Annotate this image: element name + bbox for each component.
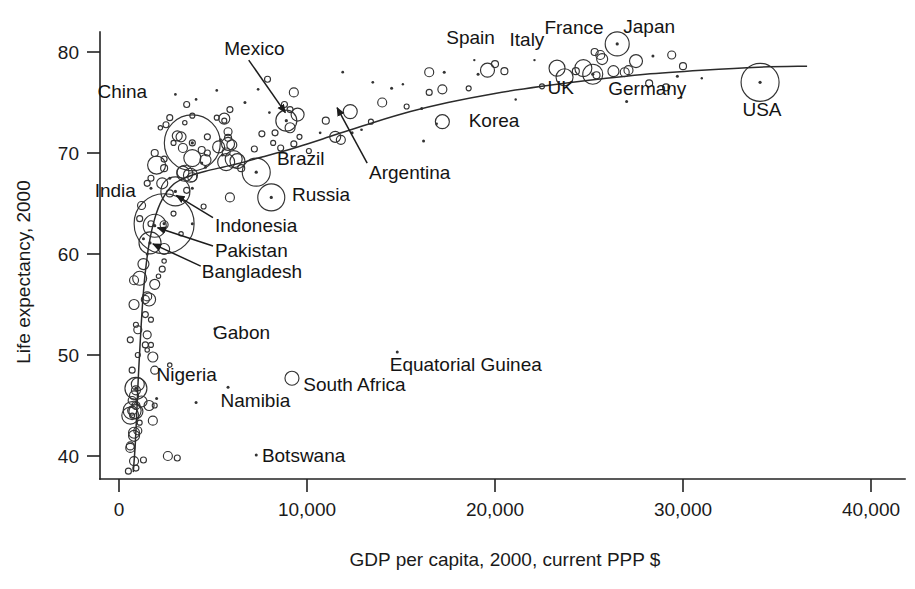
country-label: South Africa <box>303 374 406 395</box>
country-label: Japan <box>623 16 675 37</box>
data-point-dot <box>191 187 194 190</box>
data-point-bubble <box>287 107 293 113</box>
data-point-bubble <box>156 274 160 278</box>
data-point-dot <box>371 81 374 84</box>
data-point-bubble <box>167 115 173 121</box>
data-point-dot <box>402 83 404 85</box>
x-tick-label: 20,000 <box>466 499 524 520</box>
data-point-bubble <box>630 55 643 68</box>
data-point-bubble <box>171 140 176 145</box>
data-point-dot <box>200 162 203 165</box>
data-point-center-dot <box>191 141 194 144</box>
data-point-bubble <box>163 122 169 128</box>
annotation-leader-arrow <box>153 244 201 266</box>
data-point-dot <box>319 131 322 134</box>
data-point-bubble <box>668 51 676 59</box>
data-point-center-dot <box>174 190 177 193</box>
data-point-bubble <box>289 88 298 97</box>
data-point-bubble <box>426 89 432 95</box>
data-point-bubble <box>157 178 168 189</box>
data-point-dot <box>651 55 654 58</box>
data-point-bubble <box>143 331 151 339</box>
data-point-bubble <box>140 457 146 463</box>
y-tick-label: 60 <box>58 244 79 265</box>
data-point-bubble <box>152 403 157 408</box>
data-point-bubble <box>204 134 210 140</box>
country-label: China <box>98 81 148 102</box>
data-point-bubble <box>404 104 409 109</box>
data-point-bubble <box>129 367 135 373</box>
data-point-bubble <box>129 300 139 310</box>
data-point-bubble <box>142 312 148 318</box>
y-tick-label: 40 <box>58 446 79 467</box>
country-label: India <box>95 180 137 201</box>
data-point-dot <box>473 59 475 61</box>
data-point-dot <box>268 111 271 114</box>
preston-curve-figure: 010,00020,00030,00040,0004050607080 Chin… <box>0 0 915 589</box>
data-point-bubble <box>501 68 508 75</box>
data-point-bubble <box>227 107 233 113</box>
data-point-dot <box>174 93 177 96</box>
country-label: Pakistan <box>215 240 288 261</box>
x-tick-label: 0 <box>114 499 125 520</box>
x-tick-label: 10,000 <box>278 499 336 520</box>
data-point-dot <box>390 87 393 90</box>
country-label: Russia <box>292 184 351 205</box>
data-point-dot <box>514 98 516 100</box>
data-point-bubble <box>259 131 265 137</box>
data-point-dot <box>221 154 224 157</box>
data-point-bubble <box>163 452 172 461</box>
country-label: Indonesia <box>215 215 298 236</box>
data-point-bubble <box>190 113 195 118</box>
data-point-bubble <box>130 276 139 285</box>
data-point-dot <box>204 166 207 169</box>
data-point-bubble <box>593 72 600 79</box>
country-label: UK <box>548 77 575 98</box>
country-label: Argentina <box>369 162 451 183</box>
country-label: Equatorial Guinea <box>390 354 543 375</box>
data-point-dot <box>243 101 246 104</box>
data-point-dot <box>191 222 194 225</box>
data-point-center-dot <box>270 196 273 199</box>
data-point-center-dot <box>758 81 761 84</box>
data-point-bubble <box>281 102 287 108</box>
data-point-bubble <box>162 259 166 263</box>
country-label: Namibia <box>221 390 291 411</box>
data-point-bubble <box>251 146 257 152</box>
data-point-dot <box>477 73 480 76</box>
country-label: Botswana <box>262 445 346 466</box>
x-tick-label: 30,000 <box>654 499 712 520</box>
data-point-bubble <box>174 455 180 461</box>
annotation-leader-arrow <box>249 60 286 113</box>
data-point-bubble <box>150 279 160 289</box>
data-point-bubble <box>480 63 494 77</box>
y-axis-title: Life expectancy, 2000 <box>13 180 34 363</box>
country-label: Nigeria <box>157 364 218 385</box>
data-point-bubble <box>225 193 234 202</box>
country-label: USA <box>742 99 781 120</box>
country-label: Italy <box>510 29 545 50</box>
data-point-dot <box>168 177 171 180</box>
data-point-dot <box>142 237 145 240</box>
data-point-bubble <box>492 61 499 68</box>
data-point-bubble <box>680 63 687 70</box>
data-point-bubble <box>184 187 190 193</box>
country-label: Gabon <box>213 322 270 343</box>
data-point-center-dot <box>255 171 258 174</box>
data-point-bubble <box>271 140 276 145</box>
data-point-bubble <box>137 420 142 425</box>
data-point-bubble <box>291 141 297 147</box>
annotation-leader-arrow <box>176 195 213 217</box>
data-point-bubble <box>148 416 157 425</box>
data-point-bubble <box>608 66 619 77</box>
data-point-bubble <box>297 134 302 139</box>
data-point-bubble <box>184 102 190 108</box>
data-point-bubble <box>425 68 434 77</box>
data-point-bubble <box>435 115 449 129</box>
data-point-dot <box>436 123 438 125</box>
data-point-dot <box>533 59 535 61</box>
data-point-dot <box>195 98 198 101</box>
data-point-center-dot <box>616 42 619 45</box>
data-point-dot <box>701 77 703 79</box>
data-point-bubble <box>127 337 133 343</box>
